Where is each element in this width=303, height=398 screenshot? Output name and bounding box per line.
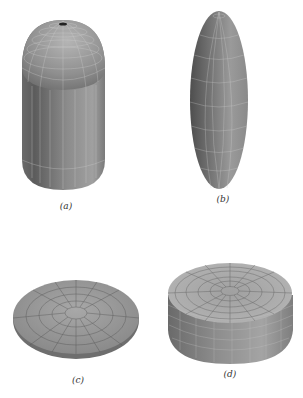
panel-d-label: (d): [224, 369, 237, 379]
shape-a-capsule: [22, 20, 105, 190]
shapes-illustration: [0, 0, 303, 398]
shape-d-cylinder: [168, 263, 293, 364]
shape-c-disc: [13, 280, 139, 359]
panel-b-label: (b): [217, 194, 230, 204]
shape-b-ellipsoid: [190, 11, 248, 189]
panel-c-label: (c): [72, 375, 84, 385]
panel-a-label: (a): [60, 201, 72, 211]
shape-figure: (a) (b) (c) (d): [0, 0, 303, 398]
